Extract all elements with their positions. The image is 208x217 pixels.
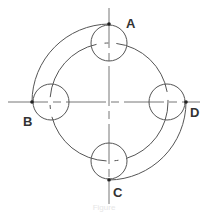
diagram-canvas [0,0,208,217]
point-b [30,100,34,104]
label-b: B [23,114,32,129]
label-a: A [126,16,135,31]
arc-d-to-c [109,102,186,180]
point-a [107,22,111,26]
centerlines [8,8,200,204]
point-d [184,100,188,104]
point-c [107,178,111,182]
label-d: D [190,105,199,120]
arc-a-to-b [32,24,109,102]
label-c: C [113,185,122,200]
figure-caption: Figure [0,203,208,212]
